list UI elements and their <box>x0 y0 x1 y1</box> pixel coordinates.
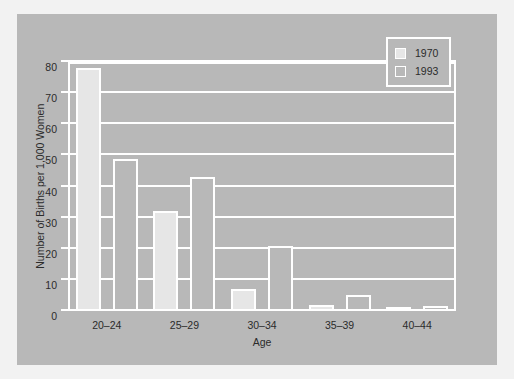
bar-1970-35-39 <box>309 305 334 311</box>
x-tick-label: 20–24 <box>92 320 121 331</box>
y-tick-mark <box>61 122 68 124</box>
y-tick-mark <box>61 247 68 249</box>
gridline <box>68 91 456 93</box>
bar-1970-40-44 <box>386 307 411 311</box>
y-tick-mark <box>61 91 68 93</box>
bar-1970-30-34 <box>231 289 256 311</box>
x-tick-label: 25–29 <box>170 320 199 331</box>
legend-swatch-1993-icon <box>395 66 406 77</box>
x-tick-label: 30–34 <box>247 320 276 331</box>
legend-swatch-1970-icon <box>395 48 406 59</box>
legend-label-1993: 1993 <box>415 66 438 77</box>
legend-item-1993: 1993 <box>395 62 438 80</box>
plot-area: 01020304050607080 20–2425–2930–3435–3940… <box>68 62 456 311</box>
bar-1993-25-29 <box>190 177 215 311</box>
bar-1993-20-24 <box>113 159 138 312</box>
bar-1993-40-44 <box>423 306 448 311</box>
legend-item-1970: 1970 <box>395 44 438 62</box>
y-tick-mark <box>61 153 68 155</box>
y-tick-mark <box>61 216 68 218</box>
bar-1993-35-39 <box>346 295 371 311</box>
y-tick-mark <box>61 60 68 62</box>
y-tick-mark <box>61 185 68 187</box>
legend-label-1970: 1970 <box>415 48 438 59</box>
bar-1970-25-29 <box>153 211 178 311</box>
x-tick-label: 35–39 <box>325 320 354 331</box>
x-tick-label: 40–44 <box>403 320 432 331</box>
gridline <box>68 153 456 155</box>
y-axis-title-text: Number of Births per 1,000 Women <box>35 104 46 269</box>
gridline <box>68 122 456 124</box>
bar-1993-30-34 <box>268 246 293 311</box>
y-tick-mark <box>61 278 68 280</box>
y-tick-mark <box>61 309 68 311</box>
chart-panel: Number of Births per 1,000 Women 0102030… <box>17 14 497 365</box>
bar-1970-20-24 <box>76 68 101 311</box>
chart-legend: 1970 1993 <box>386 37 451 87</box>
x-axis-title: Age <box>253 337 272 348</box>
figure-canvas: Number of Births per 1,000 Women 0102030… <box>0 0 514 379</box>
